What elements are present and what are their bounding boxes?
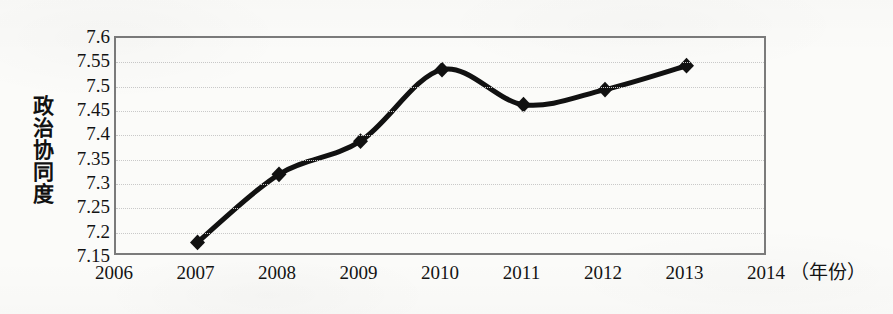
x-axis-tick-labels: 200620072008200920102011201220132014 [0,262,893,292]
gridline [116,160,764,161]
y-axis-tick-label: 7.45 [54,100,110,119]
data-point-marker [598,82,613,98]
y-axis-tick-label: 7.35 [54,149,110,168]
x-axis-unit-label: （年份） [790,261,866,283]
x-axis-tick-label: 2013 [640,262,730,284]
line-series-path [198,66,687,243]
x-axis-tick-label: 2006 [69,262,159,284]
gridline [116,87,764,88]
y-axis-tick-label: 7.55 [54,51,110,70]
line-series-svg [116,38,768,257]
y-axis-tick-label: 7.5 [54,76,110,95]
gridline [116,135,764,136]
y-axis-tick-label: 7.4 [54,124,110,143]
y-axis-tick-label: 7.3 [54,173,110,192]
y-axis-tick-label: 7.2 [54,222,110,241]
plot-area [114,36,766,255]
x-axis-tick-label: 2011 [477,262,567,284]
y-axis-tick-label: 7.25 [54,197,110,216]
y-axis-title: 政治协同度 [26,60,56,240]
gridline [116,111,764,112]
x-axis-tick-label: 2008 [232,262,322,284]
data-point-marker [435,62,450,78]
chart-figure: 政治协同度 7.157.27.257.37.357.47.457.57.557.… [0,0,893,314]
gridline [116,233,764,234]
gridline [116,184,764,185]
x-axis-tick-label: 2009 [314,262,404,284]
x-axis-tick-label: 2010 [395,262,485,284]
x-axis-tick-label: 2012 [558,262,648,284]
y-axis-tick-label: 7.6 [54,27,110,46]
gridline [116,208,764,209]
gridline [116,62,764,63]
data-point-marker [679,58,694,74]
x-axis-tick-label: 2007 [151,262,241,284]
